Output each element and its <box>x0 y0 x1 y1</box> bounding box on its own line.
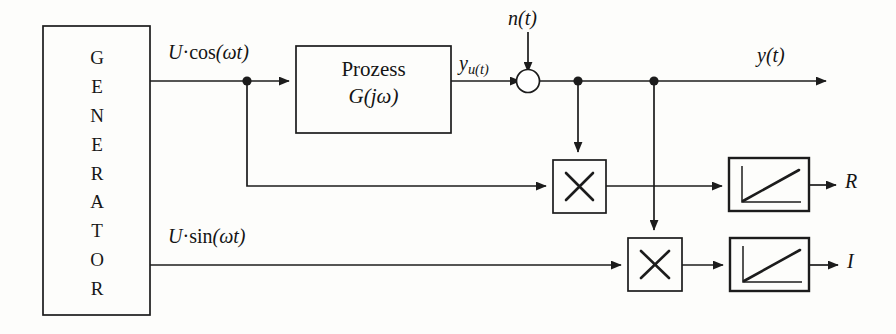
signal-label-output: y(t) <box>757 45 785 65</box>
integrator-lower-ramp-icon <box>743 246 802 282</box>
integrator-upper-box <box>729 158 809 211</box>
junction-dot-cos <box>242 76 251 85</box>
process-output-base: y <box>459 52 468 74</box>
sin-coefficient: U <box>168 225 182 247</box>
signal-label-cos: U·cos(ωt) <box>168 42 249 62</box>
generator-letter: R <box>75 275 119 304</box>
process-output-subscript: u(t) <box>468 61 489 77</box>
signal-label-process-output: yu(t) <box>459 53 489 76</box>
process-label: Prozess G(jω) <box>296 56 451 110</box>
sin-function: sin <box>189 225 212 247</box>
cos-argument: (ωt) <box>216 41 249 63</box>
generator-letter: O <box>75 246 119 275</box>
generator-letter: E <box>75 73 119 102</box>
signal-label-sin: U·sin(ωt) <box>168 226 245 246</box>
generator-label: G E N E R A T O R <box>75 44 119 304</box>
cos-coefficient: U <box>168 41 182 63</box>
output-label-imaginary: I <box>847 251 854 271</box>
summing-junction-circle <box>517 70 540 93</box>
junction-dot-tap2 <box>649 76 658 85</box>
output-label-real: R <box>845 171 857 191</box>
multiplier-upper-x-icon <box>566 173 593 200</box>
generator-letter: R <box>75 160 119 189</box>
junction-dot-tap1 <box>573 76 582 85</box>
generator-letter: E <box>75 131 119 160</box>
cos-function: cos <box>189 41 216 63</box>
generator-letter: N <box>75 102 119 131</box>
process-label-line1: Prozess <box>296 56 451 83</box>
generator-letter: G <box>75 44 119 73</box>
integrator-upper-ramp-icon <box>742 166 801 202</box>
multiplier-lower-x-icon <box>641 251 669 278</box>
signal-label-noise: n(t) <box>508 8 537 28</box>
integrator-lower-box <box>730 238 809 291</box>
generator-letter: T <box>75 217 119 246</box>
block-diagram-canvas: G E N E R A T O R Prozess G(jω) U·cos(ωt… <box>0 0 896 334</box>
generator-letter: A <box>75 188 119 217</box>
process-label-line2: G(jω) <box>296 83 451 110</box>
sin-argument: (ωt) <box>212 225 245 247</box>
